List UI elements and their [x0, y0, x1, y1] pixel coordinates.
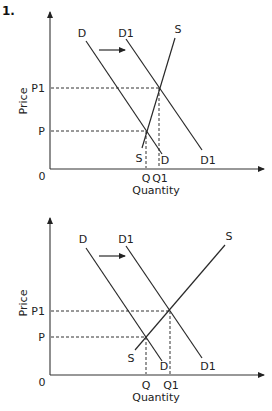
chart-1-supply-curve-s: [142, 38, 175, 148]
chart-1-p-label: P: [38, 125, 45, 138]
chart-2-d-top-label: D: [79, 233, 87, 246]
chart-2-x-label: Quantity: [132, 391, 180, 404]
chart-1-p1-label: P1: [31, 82, 45, 95]
chart-1-d-top-label: D: [78, 27, 86, 40]
chart-2-d1-bottom-label: D1: [200, 360, 215, 373]
chart-2-origin-label: 0: [39, 376, 46, 389]
chart-1-demand-curve-d: [86, 41, 162, 154]
chart-1-d1-top-label: D1: [118, 27, 133, 40]
chart-2: Price Quantity 0 P1 P Q Q1 D D1 S S D D1: [17, 218, 264, 404]
chart-2-p-label: P: [38, 331, 45, 344]
diagram-canvas: 1. Price Quantity 0 P1 P Q Q1 D D1 S S D…: [0, 0, 272, 411]
question-number: 1.: [2, 4, 15, 18]
chart-2-y-label: Price: [17, 289, 30, 316]
chart-1: Price Quantity 0 P1 P Q Q1 D D1 S S D D1: [17, 12, 264, 197]
chart-1-y-label: Price: [17, 87, 30, 114]
chart-2-s-top-label: S: [226, 230, 233, 243]
chart-1-s-top-label: S: [175, 23, 182, 36]
chart-2-demand-curve-d: [86, 248, 162, 361]
chart-1-d1-bottom-label: D1: [200, 154, 215, 167]
chart-1-demand-curve-d1: [126, 39, 202, 150]
chart-2-s-bottom-label: S: [128, 352, 135, 365]
chart-2-demand-curve-d1: [126, 246, 202, 358]
chart-1-q1-label: Q1: [152, 172, 168, 185]
chart-1-origin-label: 0: [39, 170, 46, 183]
chart-1-q-label: Q: [142, 172, 151, 185]
chart-2-d1-top-label: D1: [118, 233, 133, 246]
chart-2-q-label: Q: [142, 379, 151, 392]
chart-1-s-bottom-label: S: [136, 152, 143, 165]
chart-1-x-label: Quantity: [132, 184, 180, 197]
chart-1-d-bottom-label: D: [161, 154, 169, 167]
chart-2-d-bottom-label: D: [160, 360, 168, 373]
chart-2-q1-label: Q1: [163, 379, 179, 392]
chart-2-p1-label: P1: [31, 305, 45, 318]
chart-2-supply-curve-s: [135, 245, 225, 350]
